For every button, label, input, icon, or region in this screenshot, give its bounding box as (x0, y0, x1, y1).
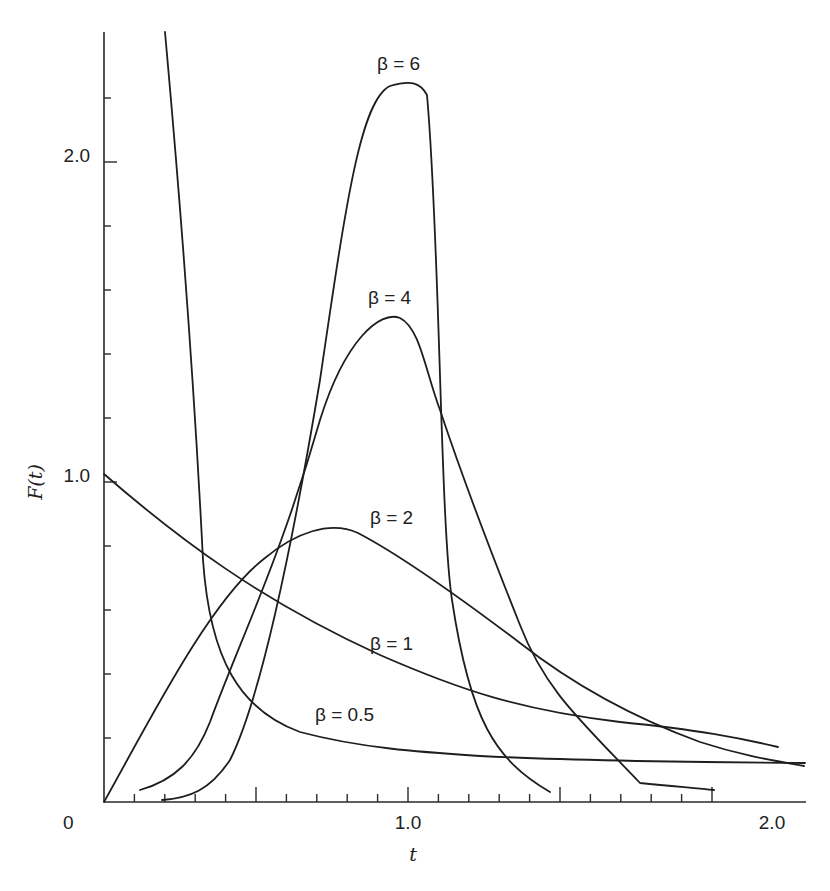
y-axis-ticks (104, 98, 117, 738)
x-axis-ticks (134, 787, 712, 802)
tick-label: 0 (63, 812, 74, 833)
curve-beta-4 (140, 317, 714, 790)
series-label: β = 2 (370, 507, 413, 528)
series-curves (104, 32, 805, 802)
tick-label: 2.0 (759, 812, 785, 833)
tick-label: 2.0 (64, 145, 90, 166)
series-label: β = 1 (370, 633, 413, 654)
clipped-caption (0, 884, 830, 891)
curve-beta-2 (104, 528, 804, 802)
curve-beta-6 (162, 83, 550, 800)
series-label: β = 0.5 (315, 704, 374, 725)
y-axis-title: F(t) (24, 464, 46, 501)
curve-beta-1 (104, 474, 778, 747)
axes: 2.01.001.02.0 (63, 32, 806, 833)
tick-label: 1.0 (64, 465, 90, 486)
series-label: β = 4 (368, 287, 412, 308)
series-label: β = 6 (377, 53, 420, 74)
curve-beta-0.5 (165, 32, 805, 763)
tick-labels: 2.01.001.02.0 (63, 145, 785, 833)
tick-label: 1.0 (395, 812, 421, 833)
weibull-hazard-chart: 2.01.001.02.0 β = 0.5β = 1β = 2β = 4β = … (0, 0, 830, 891)
x-axis-title: t (409, 843, 417, 865)
